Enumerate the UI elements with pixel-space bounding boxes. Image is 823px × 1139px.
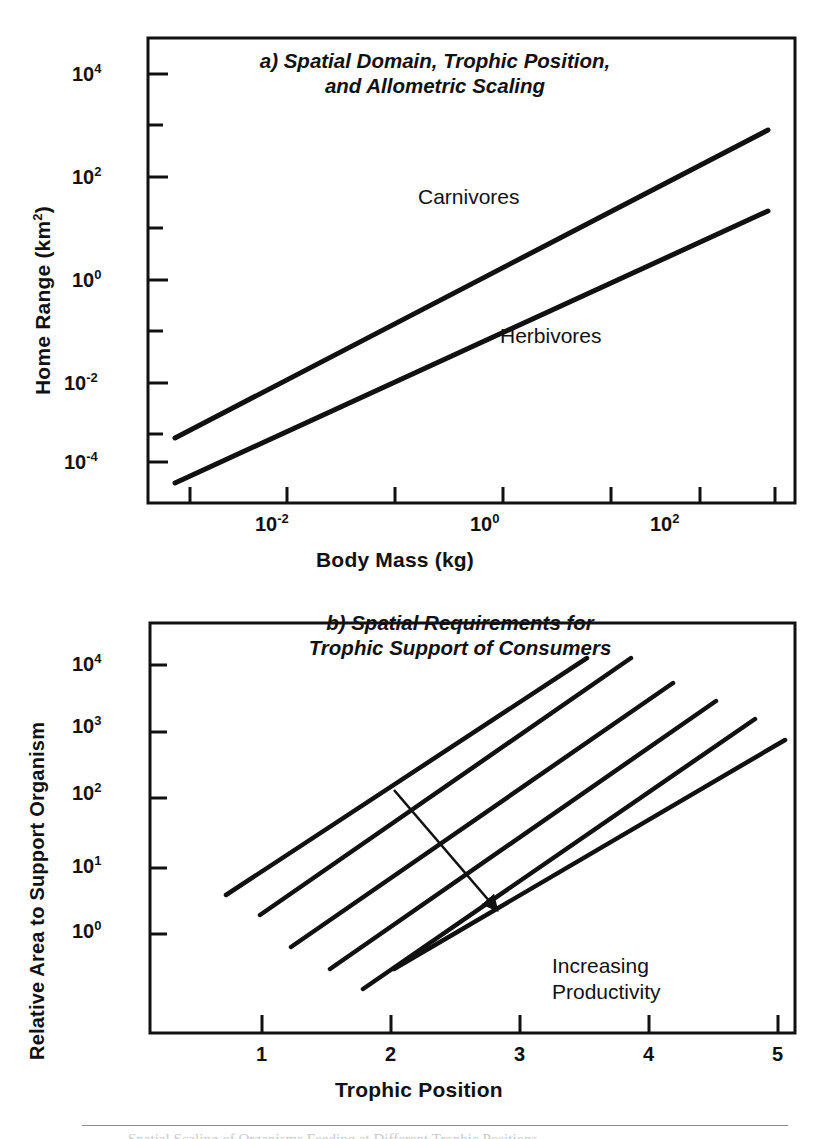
caption-fragment: Spatial Scaling of Organisms Feeding at …	[128, 1131, 788, 1139]
panel-b-y-ticks	[150, 665, 167, 934]
panel-b-plot-area	[0, 560, 823, 1100]
caption-divider-rule	[82, 1125, 788, 1126]
panel-b-x-ticks	[262, 1015, 778, 1033]
panel-b-line-1	[226, 658, 587, 895]
panel-a-plot-area	[0, 0, 823, 560]
panel-a-line-carnivores	[175, 130, 768, 438]
panel-b-line-2	[260, 658, 631, 915]
panel-b-increasing-productivity-arrow	[394, 790, 497, 910]
panel-b-productivity-lines	[226, 658, 785, 989]
panel-a-x-ticks	[190, 487, 775, 503]
panel-b-line-4	[330, 701, 716, 969]
panel-b: Relative Area to Support Organism 104 10…	[0, 560, 823, 1100]
panel-a-line-herbivores	[175, 211, 768, 483]
figure-root: Home Range (km2) 104 102 100 10-2 10-4 1…	[0, 0, 823, 1139]
panel-a-axes-frame	[148, 38, 795, 503]
panel-b-line-6	[394, 740, 785, 969]
panel-b-axes-frame	[150, 623, 795, 1033]
panel-a: Home Range (km2) 104 102 100 10-2 10-4 1…	[0, 0, 823, 560]
panel-a-y-ticks	[148, 74, 168, 462]
